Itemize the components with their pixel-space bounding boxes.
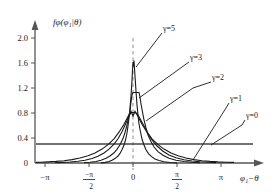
y-tick-label-0-4: 0.4 bbox=[17, 133, 28, 143]
y-tick-label-2-0: 2.0 bbox=[17, 33, 28, 43]
curve-gamma-2 bbox=[55, 113, 216, 163]
x-tick-label-minus-pi: −π bbox=[40, 172, 50, 182]
curve-gamma-3 bbox=[84, 93, 200, 163]
figure-container: 2.0 1.6 1.2 0.8 0.4 0 −π −π 2 0 π 2 π fφ… bbox=[0, 0, 274, 196]
curve-gamma-1 bbox=[36, 111, 234, 162]
x-tick-half-pi-numerator: π bbox=[175, 170, 179, 179]
density-plot: 2.0 1.6 1.2 0.8 0.4 0 −π −π 2 0 π 2 π fφ… bbox=[0, 0, 274, 196]
curve-gamma-5 bbox=[101, 61, 177, 163]
x-tick-minus-half-pi-denominator: 2 bbox=[89, 182, 93, 191]
leader-gamma-1 bbox=[193, 103, 229, 160]
y-tick-label-1-2: 1.2 bbox=[17, 83, 28, 93]
x-axis-title: φ₁−θ bbox=[240, 173, 259, 183]
curve-label-gamma-5: γ=5 bbox=[162, 24, 175, 33]
x-tick-label-minus-half-pi: −π 2 bbox=[83, 170, 95, 191]
x-tick-label-pi: π bbox=[219, 172, 224, 182]
x-tick-minus-half-pi-numerator: −π bbox=[85, 170, 93, 179]
curve-label-gamma-2: γ=2 bbox=[211, 73, 224, 82]
leader-gamma-5 bbox=[136, 33, 162, 67]
curve-label-gamma-1: γ=1 bbox=[229, 94, 242, 103]
x-tick-half-pi-denominator: 2 bbox=[175, 182, 179, 191]
y-tick-label-1-6: 1.6 bbox=[17, 58, 28, 68]
leader-gamma-2 bbox=[146, 82, 211, 121]
y-tick-label-0: 0 bbox=[24, 158, 28, 168]
x-tick-label-half-pi: π 2 bbox=[172, 170, 182, 191]
x-axis bbox=[35, 160, 264, 167]
leader-gamma-3 bbox=[139, 62, 189, 98]
y-axis-title: fφ(φ₁|θ) bbox=[53, 17, 81, 27]
x-tick-label-zero: 0 bbox=[131, 172, 135, 182]
y-tick-label-0-8: 0.8 bbox=[17, 108, 28, 118]
curve-label-gamma-3: γ=3 bbox=[189, 53, 202, 62]
y-axis bbox=[32, 20, 39, 163]
curve-label-gamma-0: γ=0 bbox=[245, 111, 258, 120]
